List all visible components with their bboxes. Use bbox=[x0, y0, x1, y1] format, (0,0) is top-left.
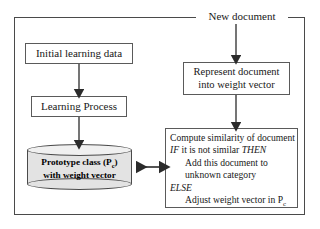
node-represent-document-line1: Represent document bbox=[193, 66, 279, 78]
prototype-class-text-pre: Prototype class (P bbox=[41, 157, 111, 167]
pseudocode-keyword-if: IF bbox=[170, 144, 179, 155]
node-prototype-class-line2: with weight vector bbox=[43, 170, 115, 182]
pseudocode-adjust-subscript: c bbox=[283, 200, 286, 207]
node-prototype-class-datastore[interactable]: Prototype class (Pc) with weight vector bbox=[27, 144, 132, 190]
node-initial-learning-data[interactable]: Initial learning data bbox=[25, 43, 133, 64]
pseudocode-line-else: ELSE bbox=[170, 182, 293, 194]
node-compute-similarity-pseudocode[interactable]: Compute similarity of document IF it is … bbox=[165, 128, 298, 208]
pseudocode-line-compute: Compute similarity of document bbox=[170, 132, 293, 144]
diagram-canvas: New document Initial learning data Learn… bbox=[0, 0, 320, 229]
pseudocode-keyword-then: THEN bbox=[242, 144, 267, 155]
pseudocode-line-adjust-weight: Adjust weight vector in Pc bbox=[170, 194, 293, 209]
pseudocode-keyword-else: ELSE bbox=[170, 182, 192, 193]
pseudocode-line-if: IF it is not similar THEN bbox=[170, 144, 293, 156]
node-learning-process[interactable]: Learning Process bbox=[31, 96, 127, 117]
pseudocode-line-add-document: Add this document to bbox=[170, 157, 293, 169]
node-represent-document[interactable]: Represent document into weight vector bbox=[183, 62, 290, 95]
node-represent-document-text: Represent document into weight vector bbox=[193, 66, 279, 91]
pseudocode-if-condition: it is not similar bbox=[179, 144, 242, 155]
node-learning-process-label: Learning Process bbox=[41, 100, 117, 113]
node-represent-document-line2: into weight vector bbox=[193, 79, 279, 91]
prototype-class-text-post: ) bbox=[115, 157, 118, 167]
node-initial-learning-data-label: Initial learning data bbox=[36, 47, 122, 60]
pseudocode-adjust-text: Adjust weight vector in P bbox=[185, 194, 283, 205]
node-prototype-class-label: Prototype class (Pc) with weight vector bbox=[27, 154, 132, 184]
label-new-document: New document bbox=[196, 10, 288, 22]
node-prototype-class-line1: Prototype class (Pc) bbox=[41, 157, 117, 170]
pseudocode-line-unknown-category: unknown category bbox=[170, 169, 293, 181]
